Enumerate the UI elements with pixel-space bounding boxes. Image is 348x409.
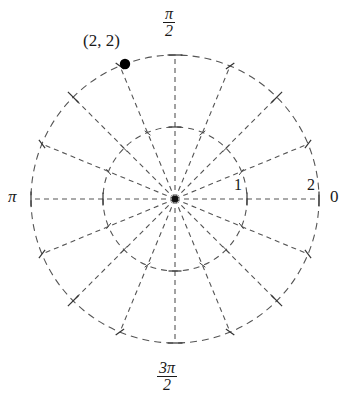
tick-outer-11 (116, 329, 124, 335)
tick-outer-13 (226, 329, 234, 335)
radius-label-1: 1 (234, 177, 242, 193)
polar-grid-svg (0, 0, 348, 409)
axis-label-zero: 0 (330, 188, 339, 205)
axis-label-3pi-over-2: 3π 2 (157, 360, 177, 394)
tick-outer-15 (305, 250, 311, 258)
pi-over-2-denominator: 2 (163, 23, 175, 39)
pi-over-2-numerator: π (163, 6, 175, 23)
polar-plot-figure: π 2 3π 2 π 0 1 2 (2, 2) (0, 0, 348, 409)
tick-outer-3 (226, 63, 234, 69)
tick-outer-10 (68, 296, 79, 307)
radius-label-2: 2 (307, 177, 315, 193)
tick-outer-7 (39, 140, 45, 148)
three-pi-over-2-numerator: 3π (157, 360, 177, 377)
origin-marker (172, 196, 178, 202)
data-point-marker (120, 59, 130, 69)
tick-outer-14 (272, 296, 283, 307)
tick-outer-9 (39, 250, 45, 258)
axis-label-pi-over-2: π 2 (163, 6, 175, 40)
three-pi-over-2-denominator: 2 (157, 377, 177, 393)
point-annotation-label: (2, 2) (83, 32, 120, 49)
tick-outer-1 (305, 140, 311, 148)
axis-label-pi: π (8, 188, 17, 205)
